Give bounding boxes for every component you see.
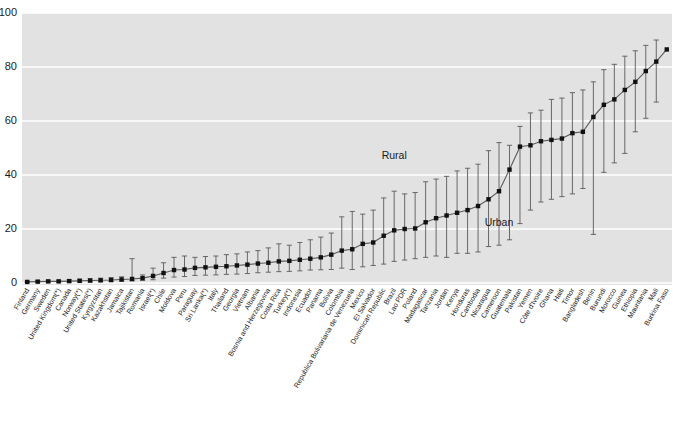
data-point-marker[interactable] (56, 279, 60, 283)
data-point-marker[interactable] (402, 227, 406, 231)
data-point-marker[interactable] (361, 242, 365, 246)
data-point-marker[interactable] (654, 59, 658, 63)
data-point-marker[interactable] (67, 279, 71, 283)
data-point-marker[interactable] (25, 280, 29, 284)
data-point-marker[interactable] (392, 228, 396, 232)
data-point-marker[interactable] (36, 279, 40, 283)
data-point-marker[interactable] (560, 136, 564, 140)
y-tick-label-20: 20 (5, 222, 17, 234)
data-point-marker[interactable] (151, 274, 155, 278)
data-point-marker[interactable] (340, 248, 344, 252)
data-point-marker[interactable] (518, 144, 522, 148)
data-point-marker[interactable] (581, 130, 585, 134)
data-point-marker[interactable] (623, 88, 627, 92)
data-point-marker[interactable] (235, 263, 239, 267)
data-point-marker[interactable] (371, 240, 375, 244)
data-point-marker[interactable] (172, 268, 176, 272)
data-point-marker[interactable] (245, 262, 249, 266)
data-point-marker[interactable] (88, 278, 92, 282)
data-point-marker[interactable] (182, 267, 186, 271)
data-point-marker[interactable] (119, 277, 123, 281)
data-point-marker[interactable] (214, 265, 218, 269)
data-point-marker[interactable] (413, 226, 417, 230)
data-point-marker[interactable] (633, 80, 637, 84)
data-point-marker[interactable] (193, 266, 197, 270)
data-point-marker[interactable] (308, 257, 312, 261)
data-point-marker[interactable] (98, 278, 102, 282)
data-point-marker[interactable] (602, 103, 606, 107)
data-point-marker[interactable] (570, 131, 574, 135)
data-point-marker[interactable] (298, 258, 302, 262)
plot-area-background (22, 13, 672, 285)
data-point-marker[interactable] (287, 259, 291, 263)
y-tick-label-100: 100 (0, 6, 17, 18)
data-point-marker[interactable] (77, 279, 81, 283)
data-point-marker[interactable] (161, 271, 165, 275)
annotation-rural: Rural (382, 149, 407, 161)
data-point-marker[interactable] (486, 197, 490, 201)
data-point-marker[interactable] (549, 138, 553, 142)
data-point-marker[interactable] (612, 97, 616, 101)
data-point-marker[interactable] (539, 139, 543, 143)
data-point-marker[interactable] (434, 216, 438, 220)
annotation-urban: Urban (485, 216, 514, 228)
data-point-marker[interactable] (444, 213, 448, 217)
data-point-marker[interactable] (507, 167, 511, 171)
y-tick-label-40: 40 (5, 168, 17, 180)
y-tick-label-60: 60 (5, 114, 17, 126)
scatter-errorbar-chart: 020406080100 FinlandGermanySwedenUnited … (0, 0, 674, 422)
data-point-marker[interactable] (203, 265, 207, 269)
chart-container: 020406080100 FinlandGermanySwedenUnited … (0, 0, 674, 422)
data-point-marker[interactable] (46, 279, 50, 283)
y-tick-label-0: 0 (11, 276, 17, 288)
data-point-marker[interactable] (665, 47, 669, 51)
data-point-marker[interactable] (350, 247, 354, 251)
data-point-marker[interactable] (266, 261, 270, 265)
data-point-marker[interactable] (497, 189, 501, 193)
data-point-marker[interactable] (224, 264, 228, 268)
data-point-marker[interactable] (109, 278, 113, 282)
data-point-marker[interactable] (319, 255, 323, 259)
data-point-marker[interactable] (465, 208, 469, 212)
data-point-marker[interactable] (140, 276, 144, 280)
y-tick-label-80: 80 (5, 60, 17, 72)
data-point-marker[interactable] (644, 69, 648, 73)
data-point-marker[interactable] (455, 211, 459, 215)
data-point-marker[interactable] (130, 277, 134, 281)
data-point-marker[interactable] (381, 234, 385, 238)
data-point-marker[interactable] (591, 115, 595, 119)
data-point-marker[interactable] (277, 259, 281, 263)
data-point-marker[interactable] (423, 220, 427, 224)
data-point-marker[interactable] (256, 261, 260, 265)
data-point-marker[interactable] (528, 143, 532, 147)
data-point-marker[interactable] (476, 204, 480, 208)
data-point-marker[interactable] (329, 252, 333, 256)
